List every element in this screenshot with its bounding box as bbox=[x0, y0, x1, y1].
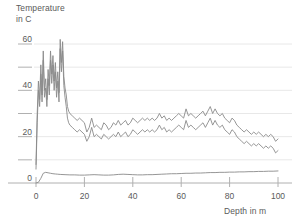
x-tick-label: 60 bbox=[169, 191, 193, 201]
temperature-depth-chart: Temperaturein C 0204060 020406080100 Dep… bbox=[0, 0, 296, 224]
y-tick-label: 0 bbox=[14, 173, 32, 183]
y-tick-label: 20 bbox=[14, 127, 32, 137]
x-tick-label: 0 bbox=[24, 191, 48, 201]
gridlines bbox=[34, 44, 292, 160]
series-line-baseline-temperature bbox=[36, 171, 278, 183]
y-tick-label: 40 bbox=[14, 80, 32, 90]
y-tick-label: 60 bbox=[14, 34, 32, 44]
x-tick-label: 20 bbox=[72, 191, 96, 201]
x-tick-label: 40 bbox=[121, 191, 145, 201]
tick-marks bbox=[18, 44, 278, 187]
data-series bbox=[36, 39, 278, 183]
x-axis-title: Depth in m bbox=[224, 206, 266, 217]
x-tick-label: 80 bbox=[218, 191, 242, 201]
series-line-upper-temperature bbox=[36, 39, 278, 164]
x-tick-label: 100 bbox=[266, 191, 290, 201]
